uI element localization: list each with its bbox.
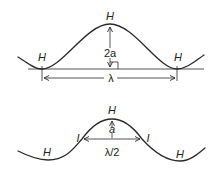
half-wavelength-label: λ/2 bbox=[105, 146, 120, 158]
amplitude-2a-label: 2a bbox=[104, 47, 117, 59]
bottom-diagram: H I I H H a λ/2 bbox=[18, 104, 205, 161]
right-angle-mark bbox=[110, 62, 118, 69]
bottom-amplitude-a-label: a bbox=[109, 123, 115, 135]
bottom-peak-label: H bbox=[108, 104, 116, 116]
wavelength-label: λ bbox=[108, 72, 114, 84]
right-inflection-label: I bbox=[146, 132, 149, 144]
top-diagram: H H H 2a λ bbox=[18, 10, 204, 84]
top-peak-label: H bbox=[106, 10, 114, 22]
left-inflection-label: I bbox=[76, 132, 79, 144]
bottom-left-trough-label: H bbox=[43, 146, 51, 158]
top-right-trough-label: H bbox=[174, 51, 182, 63]
diagram-canvas: H H H 2a λ H I I H H a λ/2 bbox=[0, 0, 220, 174]
bottom-right-trough-label: H bbox=[176, 148, 184, 160]
top-left-trough-label: H bbox=[38, 51, 46, 63]
